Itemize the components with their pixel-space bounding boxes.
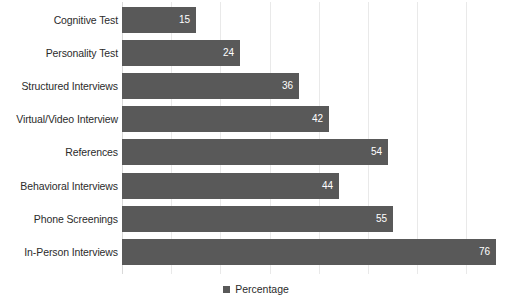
category-label: References [65, 139, 118, 165]
legend-swatch-icon [223, 286, 230, 293]
category-label: Structured Interviews [21, 73, 118, 99]
bar[interactable]: 15 [122, 7, 196, 33]
bar[interactable]: 24 [122, 40, 240, 66]
bar[interactable]: 76 [122, 239, 496, 265]
bar-row: References54 [0, 139, 512, 165]
bar-value-label: 76 [479, 239, 490, 265]
category-label: Virtual/Video Interview [16, 106, 118, 132]
chart-legend: Percentage [0, 281, 512, 297]
bar-chart: Cognitive Test15Personality Test24Struct… [0, 0, 512, 298]
category-label: In-Person Interviews [24, 239, 118, 265]
legend-label: Percentage [235, 283, 289, 295]
bar-value-label: 55 [376, 206, 387, 232]
bar-row: Cognitive Test15 [0, 7, 512, 33]
bar-value-label: 36 [282, 73, 293, 99]
bar-value-label: 15 [179, 7, 190, 33]
bar[interactable]: 42 [122, 106, 329, 132]
bar-value-label: 24 [223, 40, 234, 66]
bar-rows: Cognitive Test15Personality Test24Struct… [0, 0, 512, 278]
bar-row: Virtual/Video Interview42 [0, 106, 512, 132]
category-label: Cognitive Test [54, 7, 118, 33]
bar[interactable]: 54 [122, 139, 388, 165]
bar-row: Behavioral Interviews44 [0, 173, 512, 199]
category-label: Personality Test [46, 40, 118, 66]
category-label: Phone Screenings [34, 206, 118, 232]
bar-row: In-Person Interviews76 [0, 239, 512, 265]
bar-value-label: 44 [322, 173, 333, 199]
bar-value-label: 42 [312, 106, 323, 132]
bar[interactable]: 55 [122, 206, 393, 232]
bar-row: Structured Interviews36 [0, 73, 512, 99]
bar-value-label: 54 [371, 139, 382, 165]
category-label: Behavioral Interviews [20, 173, 118, 199]
bar-row: Personality Test24 [0, 40, 512, 66]
bar[interactable]: 44 [122, 173, 339, 199]
bar[interactable]: 36 [122, 73, 299, 99]
bar-row: Phone Screenings55 [0, 206, 512, 232]
